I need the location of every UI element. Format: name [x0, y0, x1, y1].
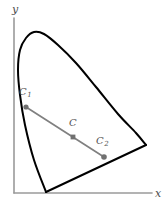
y-axis-label: y	[12, 4, 18, 15]
diagram-canvas	[0, 0, 168, 210]
point-c2-label-subscript: 2	[104, 140, 108, 148]
point-c1-label: C1	[19, 87, 31, 97]
point-c2-marker	[101, 154, 107, 160]
chromaticity-diagram-figure: y x C1 C C2	[0, 0, 168, 210]
spectral-locus-curve	[18, 32, 146, 192]
point-c1-label-main: C	[19, 86, 27, 97]
point-c1-marker	[23, 104, 28, 109]
point-c-label: C	[69, 118, 77, 128]
point-c-marker	[71, 135, 76, 140]
point-c2-label-main: C	[96, 135, 104, 146]
x-axis-label: x	[155, 188, 161, 199]
point-c1-label-subscript: 1	[27, 91, 31, 99]
point-c2-label: C2	[96, 136, 108, 146]
mixture-line-segment	[26, 107, 104, 157]
